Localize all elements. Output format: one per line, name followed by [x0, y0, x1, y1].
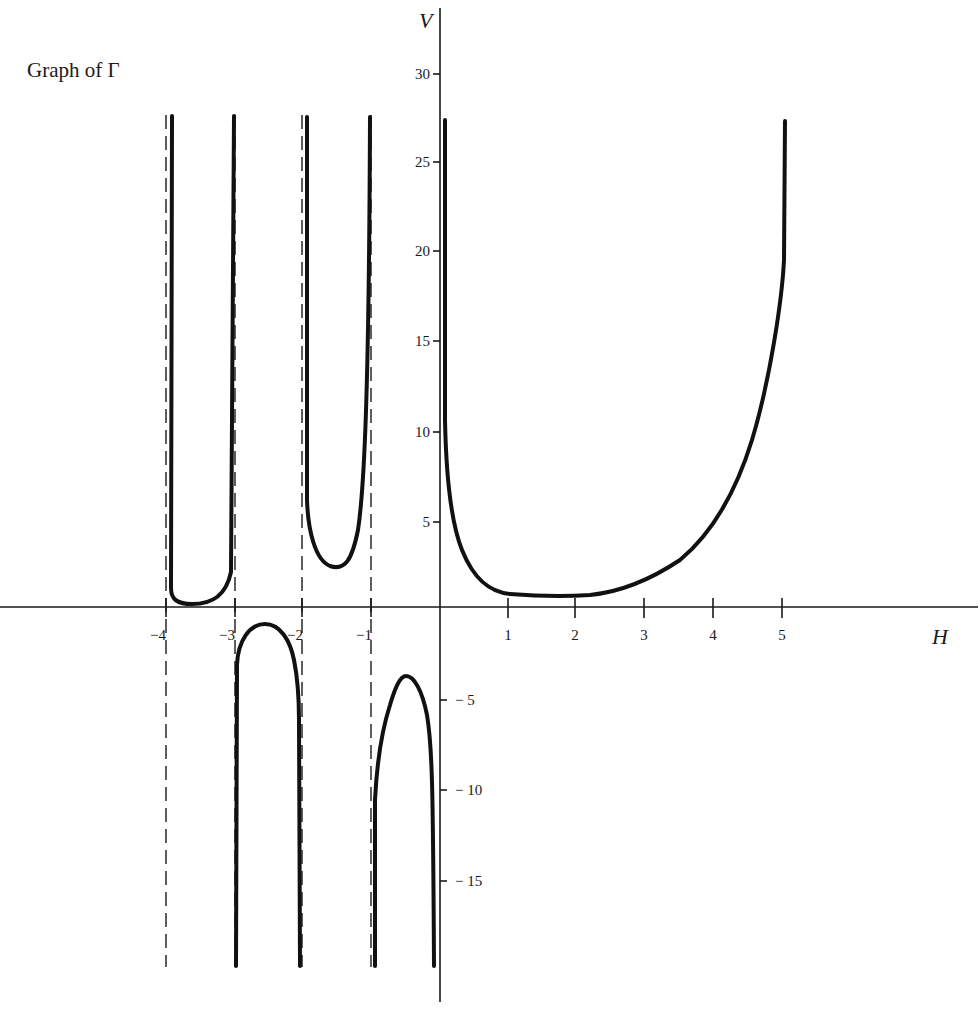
- x-tick-label: −3: [219, 627, 235, 643]
- y-tick-labels-negative: − 5 − 10 − 15: [455, 692, 482, 889]
- y-tick-label: 15: [415, 333, 430, 349]
- x-tick-label: −1: [356, 627, 372, 643]
- x-ticks: [166, 598, 782, 618]
- y-tick-label: − 10: [455, 782, 482, 798]
- curves: [171, 116, 785, 966]
- v-axis-label: V: [419, 8, 435, 33]
- x-tick-label: 1: [504, 627, 512, 643]
- x-tick-label: −4: [150, 627, 166, 643]
- graph-figure: V H −4 −3 −2 −1 1 2 3 4 5 30 25 20 15 10…: [0, 0, 980, 1024]
- h-axis-label: H: [931, 624, 949, 649]
- y-tick-label: 20: [415, 243, 430, 259]
- y-tick-label: 10: [415, 424, 430, 440]
- y-tick-label: 5: [423, 514, 431, 530]
- x-tick-label: 3: [640, 627, 648, 643]
- curve-branch-minus4-minus3: [171, 116, 234, 604]
- y-tick-label: − 15: [455, 873, 482, 889]
- curve-branch-minus3-minus2: [236, 624, 300, 966]
- asymptotes: [166, 115, 371, 967]
- y-tick-label: − 5: [455, 692, 475, 708]
- y-tick-labels-positive: 30 25 20 15 10 5: [415, 66, 430, 530]
- y-tick-label: 25: [415, 154, 430, 170]
- x-tick-label: 2: [571, 627, 579, 643]
- curve-branch-minus2-minus1: [307, 117, 370, 567]
- curve-branch-0-5: [445, 120, 785, 596]
- axes: [0, 8, 978, 1002]
- x-tick-label: 5: [778, 627, 786, 643]
- curve-branch-minus1-0: [375, 676, 434, 966]
- x-tick-label: 4: [709, 627, 717, 643]
- y-tick-label: 30: [415, 66, 430, 82]
